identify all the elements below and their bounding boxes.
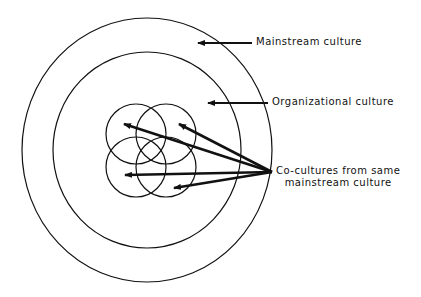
mainstream-culture-label: Mainstream culture	[256, 36, 362, 47]
diagram-canvas: Mainstream culture Organizational cultur…	[0, 0, 421, 297]
co-culture-circles	[106, 104, 196, 197]
co-cultures-label-line2: mainstream culture	[276, 177, 400, 189]
organizational-culture-circle	[53, 52, 241, 248]
co-culture-arrow-1	[124, 124, 272, 172]
co-cultures-label: Co-cultures from same mainstream culture	[276, 165, 400, 189]
mainstream-culture-circle	[22, 18, 272, 282]
co-cultures-label-line1: Co-cultures from same	[276, 165, 400, 177]
organizational-culture-label: Organizational culture	[272, 96, 394, 107]
